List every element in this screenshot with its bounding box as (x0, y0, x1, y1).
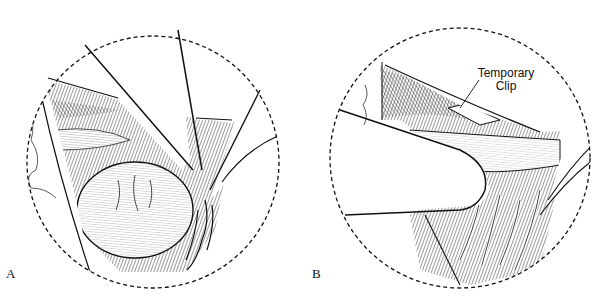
illustration-artwork (0, 0, 608, 296)
surgical-illustration-figure: A B Temporary Clip (0, 0, 608, 296)
annotation-line-2: Clip (475, 80, 537, 93)
panel-label-a: A (6, 266, 15, 282)
panel-a-artwork (10, 30, 285, 290)
panel-label-b: B (312, 266, 321, 282)
temporary-clip-annotation: Temporary Clip (475, 67, 537, 93)
panel-b-artwork (320, 28, 600, 288)
